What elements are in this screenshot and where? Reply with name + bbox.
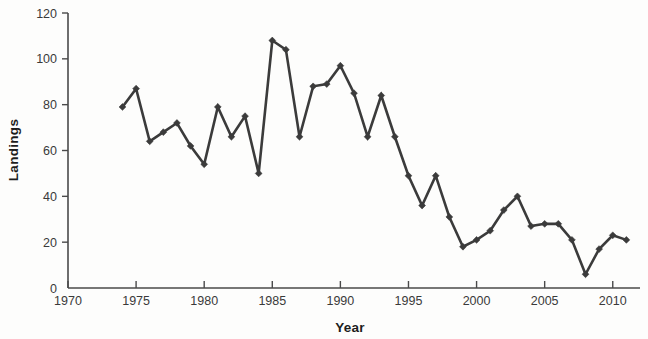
data-point-marker: 1993: 84 <box>378 92 385 99</box>
series-polyline <box>122 41 626 275</box>
x-tick-label: 2010 <box>599 294 627 308</box>
x-tick-label: 2005 <box>531 294 559 308</box>
y-axis: 020406080100120 <box>36 7 68 296</box>
data-point-marker: 1987: 66 <box>296 133 303 140</box>
x-tick-label: 2000 <box>463 294 491 308</box>
x-axis: 197019751980198519901995200020052010 <box>54 281 640 308</box>
x-tick-label: 1975 <box>122 294 150 308</box>
y-tick-label: 80 <box>43 98 57 112</box>
y-tick-label: 20 <box>43 236 57 250</box>
x-tick-label: 1995 <box>395 294 423 308</box>
x-tick-label: 1970 <box>54 294 82 308</box>
x-tick-label: 1990 <box>326 294 354 308</box>
data-point-marker: 1994: 66 <box>391 133 398 140</box>
data-point-marker: 1992: 66 <box>364 133 371 140</box>
x-axis-title: Year <box>335 320 365 335</box>
x-tick-label: 1985 <box>258 294 286 308</box>
y-axis-title: Landings <box>6 119 21 181</box>
landings-line-chart: 020406080100120 197019751980198519901995… <box>0 0 648 339</box>
data-point-marker: 2005: 28 <box>541 220 548 227</box>
data-series-landings: 1974: 791975: 871976: 641977: 681978: 72… <box>119 37 630 278</box>
y-tick-label: 60 <box>43 144 57 158</box>
y-tick-label: 100 <box>36 52 57 66</box>
data-point-marker: 1984: 50 <box>255 170 262 177</box>
data-point-marker: 2011: 21 <box>623 236 630 243</box>
x-tick-label: 1980 <box>190 294 218 308</box>
chart-plot-area: 020406080100120 197019751980198519901995… <box>0 0 648 339</box>
data-point-marker: 1988: 88 <box>310 83 317 90</box>
y-tick-label: 40 <box>43 190 57 204</box>
y-tick-label: 120 <box>36 7 57 21</box>
